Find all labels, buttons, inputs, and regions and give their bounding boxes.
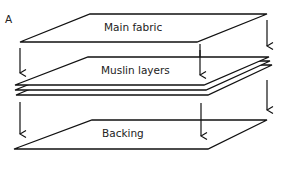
layer-stack-diagram: A Main fabric Muslin layers Backing bbox=[0, 0, 287, 175]
panel-label: A bbox=[5, 13, 13, 25]
muslin-layers-stack: Muslin layers bbox=[15, 57, 272, 95]
muslin-layers-label: Muslin layers bbox=[101, 64, 170, 76]
backing-layer: Backing bbox=[14, 120, 267, 149]
main-fabric-layer: Main fabric bbox=[20, 14, 267, 42]
main-fabric-label: Main fabric bbox=[104, 21, 162, 33]
backing-label: Backing bbox=[102, 127, 144, 139]
